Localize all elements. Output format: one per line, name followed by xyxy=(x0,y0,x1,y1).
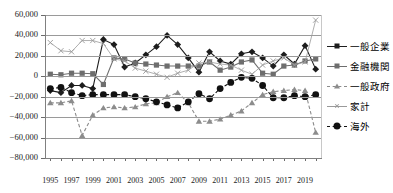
data-point xyxy=(260,62,265,67)
series-3 xyxy=(47,87,319,138)
data-point xyxy=(185,98,192,105)
data-point xyxy=(238,74,245,81)
data-point xyxy=(313,56,318,61)
series-layer xyxy=(45,15,321,158)
data-point xyxy=(174,90,180,95)
y-axis-label: 60,000 xyxy=(0,10,38,19)
data-point xyxy=(121,64,128,71)
legend-item-3[interactable]: 一般政府 xyxy=(327,76,393,96)
axis-line-right xyxy=(321,15,322,159)
series-1 xyxy=(47,32,319,96)
series-line xyxy=(50,20,315,77)
data-point xyxy=(313,18,318,23)
y-axis-label: −60,000 xyxy=(0,133,38,142)
data-point xyxy=(164,101,171,108)
chart-legend: 一般企業金融機関一般政府家計海外 xyxy=(327,36,393,136)
data-point xyxy=(69,71,74,76)
data-point xyxy=(79,92,86,99)
series-line xyxy=(50,35,315,92)
data-point xyxy=(100,105,106,110)
legend-marker-square-icon xyxy=(327,60,347,72)
data-point xyxy=(47,85,54,92)
x-axis-label: 2019 xyxy=(292,176,318,185)
data-point xyxy=(68,89,75,96)
legend-item-4[interactable]: 家計 xyxy=(327,96,393,116)
legend-label: 一般企業 xyxy=(350,41,390,52)
data-point xyxy=(312,66,319,73)
legend-marker-triangle-icon xyxy=(327,80,347,92)
plot-area xyxy=(45,15,321,158)
data-point xyxy=(68,98,74,103)
data-point xyxy=(280,94,287,101)
legend-marker-diamond-icon xyxy=(327,40,347,52)
data-point xyxy=(100,36,107,43)
data-point xyxy=(218,68,223,73)
data-point xyxy=(164,63,169,68)
data-point xyxy=(58,84,65,91)
data-point xyxy=(260,71,265,76)
data-point xyxy=(259,82,266,89)
data-point xyxy=(239,59,244,64)
y-axis-label: −20,000 xyxy=(0,92,38,101)
legend-label: 一般政府 xyxy=(350,81,390,92)
data-point xyxy=(175,63,180,68)
data-point xyxy=(249,100,255,105)
data-point xyxy=(143,61,148,66)
gridline xyxy=(45,35,322,36)
data-point xyxy=(249,48,256,55)
legend-item-1[interactable]: 一般企業 xyxy=(327,36,393,56)
data-point xyxy=(80,71,85,76)
data-point xyxy=(154,62,159,67)
data-point xyxy=(175,71,180,76)
legend-label: 家計 xyxy=(350,101,370,112)
legend-marker-x-icon xyxy=(327,100,347,112)
data-point xyxy=(48,40,53,45)
data-point xyxy=(227,79,234,86)
y-axis-label: 0 xyxy=(0,71,38,80)
data-point xyxy=(302,42,309,49)
data-point xyxy=(111,104,117,109)
legend-item-5[interactable]: 海外 xyxy=(327,116,393,136)
gridline xyxy=(45,97,322,98)
y-axis-label: 40,000 xyxy=(0,30,38,39)
data-point xyxy=(281,63,286,68)
data-point xyxy=(217,85,224,92)
data-point xyxy=(79,82,86,89)
gridline xyxy=(45,138,322,139)
gridline xyxy=(45,76,322,77)
data-point xyxy=(174,105,181,112)
data-point xyxy=(312,129,318,134)
y-axis-label: 20,000 xyxy=(0,51,38,60)
data-point xyxy=(270,94,277,101)
y-axis-label: −40,000 xyxy=(0,112,38,121)
axis-line-bottom xyxy=(45,158,322,159)
data-point xyxy=(291,92,298,99)
series-5 xyxy=(47,74,319,111)
gridline xyxy=(45,15,322,16)
gridline xyxy=(45,117,322,118)
data-point xyxy=(196,118,202,123)
legend-label: 金融機関 xyxy=(350,61,390,72)
chart-title xyxy=(42,0,292,4)
legend-label: 海外 xyxy=(350,121,370,132)
data-point xyxy=(143,69,148,74)
series-line xyxy=(50,58,315,85)
y-axis-label: −80,000 xyxy=(0,153,38,162)
legend-marker-circle-icon xyxy=(327,120,347,132)
gridline xyxy=(45,56,322,57)
data-point xyxy=(68,82,75,89)
data-point xyxy=(89,85,96,92)
axis-line-left xyxy=(45,15,46,159)
data-point xyxy=(111,41,118,48)
data-point xyxy=(101,82,106,87)
chart-container: 60,00040,00020,0000−20,000−40,000−60,000… xyxy=(0,0,393,193)
data-point xyxy=(153,98,160,105)
legend-item-2[interactable]: 金融機関 xyxy=(327,56,393,76)
data-point xyxy=(302,88,308,93)
data-point xyxy=(239,68,244,73)
data-point xyxy=(249,57,254,62)
data-point xyxy=(133,60,138,65)
